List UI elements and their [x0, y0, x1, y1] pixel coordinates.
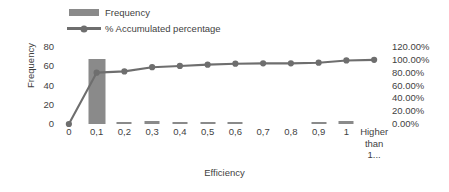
chart-legend: Frequency % Accumulated percentage [66, 6, 221, 35]
x-axis-label-line: than [352, 138, 396, 150]
x-axis-label-line: 1... [352, 149, 396, 161]
line-marker [205, 62, 211, 68]
pareto-chart: Frequency % Accumulated percentage Frequ… [0, 0, 449, 192]
line-markers [66, 57, 377, 127]
y-left-tick: 60 [22, 61, 54, 71]
y-right-tick: 0.00% [392, 119, 448, 129]
x-axis-label-line: Higher [352, 126, 396, 138]
line-marker [288, 60, 294, 66]
line-marker [232, 61, 238, 67]
y-right-tick: 60.00% [392, 81, 448, 91]
line-marker [94, 70, 100, 76]
line-marker [371, 57, 377, 63]
x-axis-labels: 00,10,20,30,40,50,60,70,80,91Higherthan1… [55, 126, 388, 170]
plot-area [55, 47, 388, 124]
line-marker [343, 57, 349, 63]
y-right-tick: 100.00% [392, 55, 448, 65]
legend-label-frequency: Frequency [105, 6, 150, 19]
y-left-tick: 20 [22, 100, 54, 110]
line-marker [260, 60, 266, 66]
y-axis-right-ticks: 120.00%100.00%80.00%60.00%40.00%20.00%0.… [392, 0, 449, 192]
y-right-tick: 80.00% [392, 68, 448, 78]
line-path [69, 60, 374, 124]
legend-label-accumulated-percentage: % Accumulated percentage [105, 22, 221, 35]
y-right-tick: 120.00% [392, 42, 448, 52]
legend-item-frequency: Frequency [66, 6, 221, 19]
accumulated-percentage-line [55, 47, 388, 124]
y-right-tick: 40.00% [392, 93, 448, 103]
x-axis-label: Higherthan1... [352, 126, 396, 161]
y-left-tick: 40 [22, 81, 54, 91]
y-right-tick: 20.00% [392, 106, 448, 116]
x-axis-title: Efficiency [0, 167, 449, 178]
y-left-tick: 80 [22, 42, 54, 52]
legend-item-accumulated-percentage: % Accumulated percentage [66, 22, 221, 35]
line-marker [149, 64, 155, 70]
line-marker [121, 68, 127, 74]
line-marker [177, 63, 183, 69]
line-marker [316, 60, 322, 66]
